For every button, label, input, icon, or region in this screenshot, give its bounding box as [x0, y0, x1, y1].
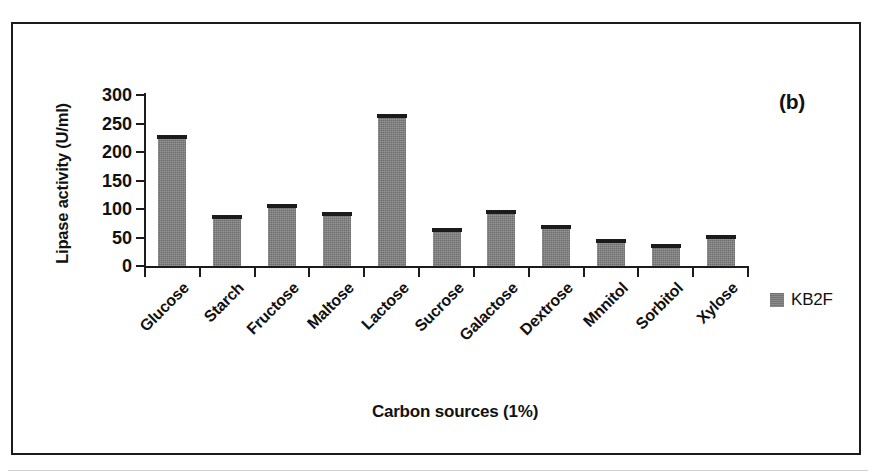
y-axis-tick [136, 151, 145, 153]
y-axis-tick [136, 94, 145, 96]
y-axis-tick [136, 237, 145, 239]
y-axis-tick [136, 180, 145, 182]
x-axis-category-label-text: Fructose [243, 279, 302, 338]
error-bar-cap [541, 225, 571, 229]
x-axis-tick [144, 268, 146, 277]
x-axis-category-label-text: Maltose [304, 279, 358, 333]
error-bar-cap [432, 228, 462, 232]
error-bar-cap [377, 114, 407, 118]
x-axis-category-label-text: Mnnitol [580, 279, 632, 331]
y-axis-tick-label: 50 [112, 227, 132, 248]
legend-swatch-kb2f [770, 293, 784, 307]
y-axis-tick [136, 208, 145, 210]
x-axis-category-label-text: Xylose [693, 279, 741, 327]
y-axis-tick [136, 265, 145, 267]
error-bar-cap [157, 135, 187, 139]
panel-letter: (b) [779, 90, 805, 114]
x-axis-category-label-text: Glucose [137, 279, 193, 335]
error-bar-cap [212, 215, 242, 219]
legend-label-kb2f: KB2F [791, 290, 833, 310]
y-axis-title: Lipase activity (U/ml) [53, 69, 72, 299]
x-axis-category-label: Starch [235, 245, 282, 292]
y-axis-tick-label: 0 [122, 256, 132, 277]
y-axis-tick-label: 200 [102, 142, 132, 163]
bar-glucose [158, 138, 186, 266]
figure-panel: (b) Lipase activity (U/ml) Carbon source… [11, 22, 861, 455]
plot-area: 050100150200250300 GlucoseStarchFructose… [145, 95, 748, 266]
y-axis-tick-label: 150 [102, 170, 132, 191]
legend: KB2F [770, 290, 833, 310]
x-axis-title: Carbon sources (1%) [245, 402, 665, 422]
error-bar-cap [322, 212, 352, 216]
x-axis-category-label-text: Starch [201, 279, 248, 326]
page-rule [8, 470, 868, 471]
x-axis-category-label-text: Sucrose [411, 279, 467, 335]
error-bar-cap [486, 210, 516, 214]
y-axis-tick-label: 100 [102, 199, 132, 220]
x-axis-line [144, 266, 749, 268]
y-axis-tick [136, 123, 145, 125]
error-bar-cap [267, 204, 297, 208]
x-axis-category-label-text: Dextrose [517, 279, 577, 339]
y-axis-tick-label: 300 [102, 85, 132, 106]
x-axis-category-label-text: Sorbitol [632, 279, 686, 333]
y-axis-tick-label: 250 [102, 113, 132, 134]
error-bar-cap [706, 235, 736, 239]
x-axis-category-label-text: Lactose [358, 279, 413, 334]
